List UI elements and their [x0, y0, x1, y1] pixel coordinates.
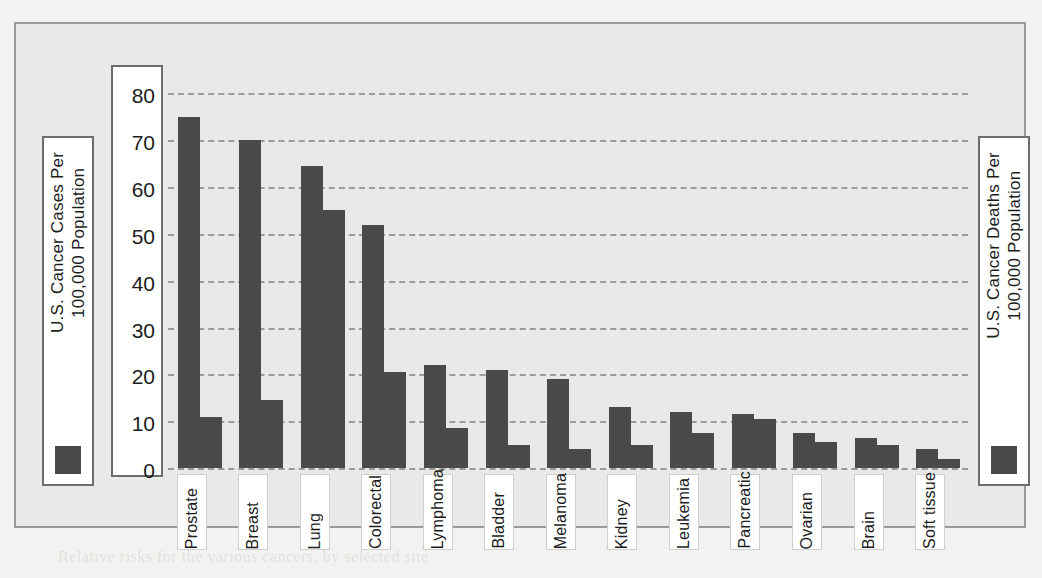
category-label: Breast [244, 499, 262, 549]
bar-cases [178, 117, 200, 468]
bar-group [178, 70, 222, 468]
bar-deaths [323, 210, 345, 468]
category-label-box: Leukemia [669, 474, 699, 550]
bar-cases [239, 140, 261, 468]
category-label: Pancreatic [736, 468, 754, 549]
legend-left-label: U.S. Cancer Cases Per 100,000 Population [47, 152, 90, 333]
category-label: Lymphoma [429, 466, 447, 549]
category-label-box: Ovarian [792, 474, 822, 550]
category-label: Brain [860, 508, 878, 549]
bar-group [670, 70, 714, 468]
bar-group [609, 70, 653, 468]
bar-group [301, 70, 345, 468]
y-axis-tick-label: 20 [132, 366, 155, 387]
chart-page: the Alexander and Taylor cases, the cour… [0, 0, 1042, 578]
bar-group [486, 70, 530, 468]
bar-deaths [508, 445, 530, 468]
category-label: Melanoma [552, 470, 570, 549]
bar-cases [793, 433, 815, 468]
category-label-box: Pancreatic [730, 474, 760, 550]
category-label: Colorectal [367, 472, 385, 549]
y-axis-tick-label: 50 [132, 225, 155, 246]
bars-layer [168, 70, 968, 468]
bar-cases [855, 438, 877, 468]
bar-deaths [815, 442, 837, 468]
bar-group [362, 70, 406, 468]
legend-left-cases: U.S. Cancer Cases Per 100,000 Population [42, 136, 94, 486]
bar-group [547, 70, 591, 468]
bar-deaths [569, 449, 591, 468]
category-label-box: Soft tissue [915, 474, 945, 550]
y-axis-tick-panel: 80706050403020100 [111, 65, 163, 477]
bar-cases [609, 407, 631, 468]
category-label: Ovarian [798, 489, 816, 549]
category-label-box: Bladder [484, 474, 514, 550]
category-label-box: Lymphoma [423, 474, 453, 550]
y-axis-tick-label: 30 [132, 319, 155, 340]
bar-group [239, 70, 283, 468]
plot-area [168, 70, 968, 468]
figure-frame: 80706050403020100 U.S. Cancer Cases Per … [14, 22, 1026, 528]
y-axis-tick-label: 10 [132, 413, 155, 434]
bar-deaths [261, 400, 283, 468]
bar-cases [424, 365, 446, 468]
bar-group [424, 70, 468, 468]
category-label: Soft tissue [921, 469, 939, 549]
bar-deaths [938, 459, 960, 468]
category-label-layer: ProstateBreastLungColorectalLymphomaBlad… [168, 472, 968, 550]
category-label-box: Prostate [177, 474, 207, 550]
category-label-box: Melanoma [546, 474, 576, 550]
y-axis-tick-label: 40 [132, 272, 155, 293]
bar-cases [486, 370, 508, 468]
category-label: Leukemia [675, 475, 693, 549]
ghost-text-caption: Relative risks for the various cancers, … [58, 548, 429, 566]
legend-right-deaths: U.S. Cancer Deaths Per 100,000 Populatio… [978, 136, 1030, 486]
category-label: Kidney [613, 496, 631, 549]
bar-deaths [200, 417, 222, 469]
bar-group [793, 70, 837, 468]
bar-cases [670, 412, 692, 468]
category-label-box: Breast [238, 474, 268, 550]
y-axis-tick-label: 80 [132, 85, 155, 106]
bar-cases [916, 449, 938, 468]
bar-cases [301, 166, 323, 468]
bar-group [855, 70, 899, 468]
category-label: Bladder [490, 489, 508, 549]
bar-cases [547, 379, 569, 468]
legend-left-swatch [55, 446, 81, 474]
bar-deaths [446, 428, 468, 468]
bar-group [732, 70, 776, 468]
bar-deaths [384, 372, 406, 468]
y-axis-tick-label: 60 [132, 179, 155, 200]
legend-right-label: U.S. Cancer Deaths Per 100,000 Populatio… [983, 152, 1026, 339]
bar-deaths [631, 445, 653, 468]
category-label-box: Kidney [607, 474, 637, 550]
bar-cases [362, 225, 384, 468]
category-label-box: Colorectal [361, 474, 391, 550]
bar-deaths [692, 433, 714, 468]
category-label-box: Brain [854, 474, 884, 550]
y-axis-tick-label: 0 [143, 460, 155, 481]
bar-deaths [754, 419, 776, 468]
bar-deaths [877, 445, 899, 468]
category-label: Lung [306, 510, 324, 549]
bar-group [916, 70, 960, 468]
y-axis-tick-label: 70 [132, 132, 155, 153]
category-label-box: Lung [300, 474, 330, 550]
bar-cases [732, 414, 754, 468]
category-label: Prostate [183, 485, 201, 549]
legend-right-swatch [991, 446, 1017, 474]
